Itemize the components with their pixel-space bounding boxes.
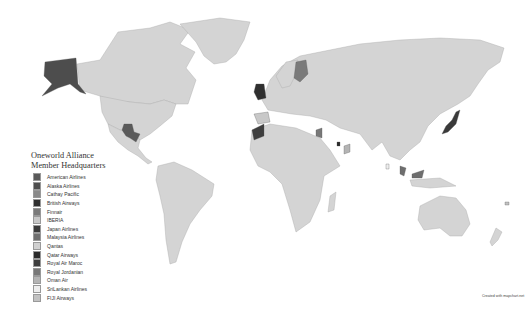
legend-label: Malaysia Airlines <box>47 234 84 240</box>
legend-label: Qantas <box>47 243 63 249</box>
legend-swatch <box>33 216 41 224</box>
spain[interactable] <box>254 112 270 124</box>
legend-swatch <box>33 182 41 190</box>
southeast-asia-islands[interactable] <box>410 178 456 188</box>
legend-item-malaysia-airlines: Malaysia Airlines <box>33 233 105 242</box>
map-legend: Oneworld Alliance Member Headquarters Am… <box>31 151 105 302</box>
legend-item-american-airlines: American Airlines <box>33 173 105 182</box>
united-kingdom[interactable] <box>254 84 266 100</box>
legend-item-alaska-airlines: Alaska Airlines <box>33 182 105 191</box>
legend-swatch <box>33 268 41 276</box>
south-america[interactable] <box>156 162 214 264</box>
legend-label: Japan Airlines <box>47 226 78 232</box>
legend-swatch <box>33 242 41 250</box>
legend-swatch <box>33 294 41 302</box>
legend-swatch <box>33 259 41 267</box>
legend-item-oman-air: Oman Air <box>33 276 105 285</box>
legend-swatch <box>33 276 41 284</box>
legend-item-cathay-pacific: Cathay Pacific <box>33 190 105 199</box>
legend-swatch <box>33 173 41 181</box>
legend-item-finnair: Finnair <box>33 207 105 216</box>
legend-label: Cathay Pacific <box>47 191 79 197</box>
legend-label: IBERIA <box>47 217 63 223</box>
legend-item-qatar-airways: Qatar Airways <box>33 250 105 259</box>
madagascar[interactable] <box>328 192 336 212</box>
legend-label: British Airways <box>47 200 80 206</box>
legend-swatch <box>33 233 41 241</box>
legend-label: Qatar Airways <box>47 252 78 258</box>
legend-label: Royal Air Maroc <box>47 260 82 266</box>
legend-item-iberia: IBERIA <box>33 216 105 225</box>
legend-item-japan-airlines: Japan Airlines <box>33 225 105 234</box>
legend-label: FIJI Airways <box>47 295 74 301</box>
legend-label: SriLankan Airlines <box>47 286 87 292</box>
australia[interactable] <box>418 196 470 236</box>
legend-item-fiji-airways: FIJI Airways <box>33 293 105 302</box>
legend-swatch <box>33 285 41 293</box>
canada-region[interactable] <box>77 22 196 104</box>
japan[interactable] <box>442 110 460 134</box>
legend-swatch <box>33 225 41 233</box>
legend-swatch <box>33 251 41 259</box>
qatar[interactable] <box>337 142 340 146</box>
legend-list: American Airlines Alaska Airlines Cathay… <box>31 173 105 302</box>
legend-item-royal-air-maroc: Royal Air Maroc <box>33 259 105 268</box>
sri-lanka[interactable] <box>386 164 389 169</box>
legend-label: Royal Jordanian <box>47 269 83 275</box>
fiji[interactable] <box>505 202 509 205</box>
legend-label: American Airlines <box>47 174 86 180</box>
malaysia[interactable] <box>400 166 424 178</box>
legend-item-qantas: Qantas <box>33 242 105 251</box>
legend-swatch <box>33 190 41 198</box>
legend-label: Alaska Airlines <box>47 183 80 189</box>
oman[interactable] <box>344 144 350 154</box>
legend-item-srilankan-airlines: SriLankan Airlines <box>33 285 105 294</box>
legend-swatch <box>33 199 41 207</box>
legend-label: Oman Air <box>47 277 68 283</box>
new-zealand[interactable] <box>490 228 502 246</box>
legend-item-british-airways: British Airways <box>33 199 105 208</box>
legend-swatch <box>33 208 41 216</box>
africa[interactable] <box>250 124 340 232</box>
legend-item-royal-jordanian: Royal Jordanian <box>33 268 105 277</box>
legend-title-line2: Member Headquarters <box>31 161 105 171</box>
legend-label: Finnair <box>47 209 62 215</box>
legend-title-line1: Oneworld Alliance <box>31 151 105 161</box>
mapchart-credit: Created with mapchart.net <box>482 294 524 298</box>
